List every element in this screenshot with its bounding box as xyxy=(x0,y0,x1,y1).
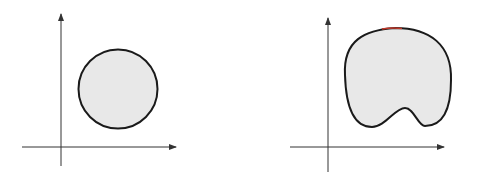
convex-circle xyxy=(79,50,158,129)
panel-left xyxy=(22,14,176,166)
highlight-edge xyxy=(382,28,402,29)
figure xyxy=(0,0,478,179)
nonconvex-blob xyxy=(345,28,451,127)
panel-right xyxy=(290,18,451,172)
